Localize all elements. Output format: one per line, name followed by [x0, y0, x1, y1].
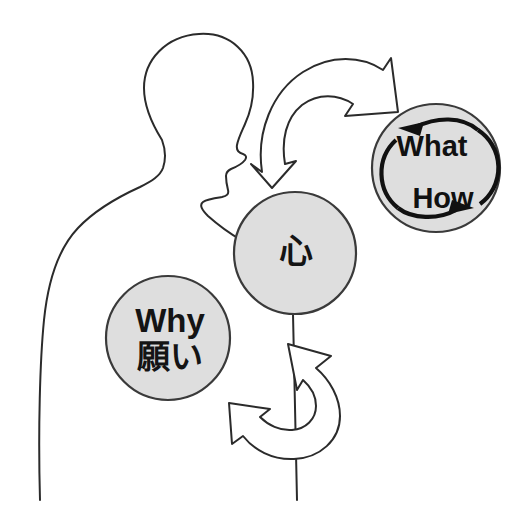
diagram-canvas: Why 願い 心 What How: [0, 0, 514, 527]
diagram-svg: Why 願い 心 What How: [0, 0, 514, 527]
bubble-what-how[interactable]: What How: [372, 104, 500, 232]
bubble-heart[interactable]: 心: [234, 192, 356, 314]
bubble-what-label: What: [397, 130, 468, 162]
bubble-how-label: How: [412, 182, 474, 214]
bubble-why[interactable]: Why 願い: [106, 276, 230, 400]
silhouette-right-body-line: [293, 314, 297, 500]
bubble-why-label-en: Why: [135, 302, 205, 339]
silhouette-outline: [39, 34, 253, 500]
bubble-why-label-jp: 願い: [137, 338, 203, 375]
curved-arrow-up-left-shape: [229, 344, 340, 459]
curved-arrow-up-left: [229, 344, 340, 459]
bubble-heart-label: 心: [279, 232, 313, 270]
